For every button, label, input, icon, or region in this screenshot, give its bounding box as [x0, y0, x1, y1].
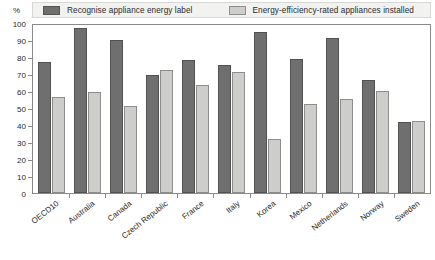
bar-series1 [218, 65, 231, 193]
y-axis-tick-mark [28, 126, 32, 127]
bar-series1 [326, 38, 339, 193]
x-axis-category-label: Korea [255, 199, 277, 219]
bar-series2 [340, 99, 353, 193]
y-axis-tick-mark [28, 75, 32, 76]
bar-series2 [268, 139, 281, 193]
bar-series1 [182, 60, 195, 193]
x-axis-tick-mark [141, 194, 142, 198]
bar-series1 [254, 32, 267, 193]
bar-series2 [376, 91, 389, 193]
bar-group [290, 25, 317, 193]
x-axis-category-label: Sweden [393, 199, 421, 224]
y-axis-tick-mark [28, 109, 32, 110]
y-axis-tick-label: 0 [4, 190, 26, 199]
legend-swatch-series1 [43, 6, 60, 15]
bar-series1 [398, 122, 411, 193]
bar-series1 [362, 80, 375, 193]
y-axis-tick-label: 50 [4, 105, 26, 114]
x-axis-category-label: Mexico [288, 199, 314, 222]
y-axis-tick-label: 60 [4, 88, 26, 97]
x-axis-category-label: Netherlands [310, 199, 350, 233]
x-axis-tick-mark [286, 194, 287, 198]
bar-series2 [304, 104, 317, 193]
y-axis-tick-label: 20 [4, 156, 26, 165]
legend-label-series2: Energy-efficiency-rated appliances insta… [253, 6, 414, 15]
y-axis-tick-mark [28, 41, 32, 42]
legend-item-series1: Recognise appliance energy label [43, 3, 193, 17]
y-axis-tick-label: 70 [4, 71, 26, 80]
bar-series2 [88, 92, 101, 193]
legend-label-series1: Recognise appliance energy label [67, 6, 193, 15]
x-axis-tick-mark [69, 194, 70, 198]
x-axis-tick-mark [358, 194, 359, 198]
y-axis-tick-label: 90 [4, 37, 26, 46]
bar-group [398, 25, 425, 193]
bar-series2 [52, 97, 65, 193]
chart-legend: Recognise appliance energy label Energy-… [32, 2, 431, 18]
bar-series1 [38, 62, 51, 193]
bar-group [74, 25, 101, 193]
x-axis-tick-mark [250, 194, 251, 198]
x-axis-tick-mark [322, 194, 323, 198]
x-axis-category-label: Norway [359, 199, 386, 223]
bars-layer [33, 25, 430, 193]
bar-group [110, 25, 137, 193]
x-axis-category-label: Italy [224, 199, 241, 215]
bar-series1 [146, 75, 159, 193]
legend-swatch-series2 [229, 6, 246, 15]
bar-series2 [160, 70, 173, 193]
x-axis-tick-mark [177, 194, 178, 198]
bar-series2 [196, 85, 209, 193]
bar-group [254, 25, 281, 193]
y-axis-tick-label: 30 [4, 139, 26, 148]
bar-series2 [232, 72, 245, 193]
bar-series1 [290, 59, 303, 193]
y-axis-tick-mark [28, 177, 32, 178]
y-axis-tick-mark [28, 92, 32, 93]
x-axis-category-label: France [180, 199, 205, 221]
y-axis-tick-label: 40 [4, 122, 26, 131]
x-axis-tick-mark [213, 194, 214, 198]
bar-series2 [124, 106, 137, 193]
bar-group [146, 25, 173, 193]
x-axis-category-label: Australia [67, 199, 97, 225]
bar-series2 [412, 121, 425, 193]
x-axis-category-label: OECD10 [30, 199, 61, 226]
y-axis-tick-mark [28, 58, 32, 59]
x-axis-tick-mark [394, 194, 395, 198]
chart-page: Recognise appliance energy label Energy-… [0, 0, 435, 260]
x-axis-tick-mark [105, 194, 106, 198]
y-axis-tick-label: 80 [4, 54, 26, 63]
bar-group [326, 25, 353, 193]
x-axis-category-label: Canada [105, 199, 133, 223]
bar-group [38, 25, 65, 193]
y-axis-tick-mark [28, 143, 32, 144]
y-axis-tick-label: 10 [4, 173, 26, 182]
bar-group [182, 25, 209, 193]
bar-group [218, 25, 245, 193]
bar-series1 [74, 28, 87, 193]
bar-series1 [110, 40, 123, 193]
y-axis-unit-label: % [13, 6, 20, 15]
legend-item-series2: Energy-efficiency-rated appliances insta… [229, 3, 414, 17]
bar-group [362, 25, 389, 193]
y-axis-tick-mark [28, 160, 32, 161]
y-axis-tick-label: 100 [4, 20, 26, 29]
